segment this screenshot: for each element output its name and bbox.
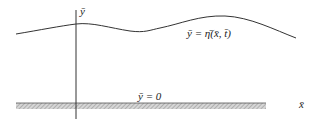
x-axis-label: x̄ <box>299 99 304 110</box>
surface-equation-label: ȳ = η̄(x̄, t̄) <box>187 28 231 39</box>
bottom-equation-label: ȳ = 0 <box>138 91 161 102</box>
bottom-boundary-hatch <box>16 103 266 109</box>
free-surface-curve <box>16 16 296 38</box>
y-axis-label: ȳ <box>80 6 85 17</box>
wave-diagram <box>0 0 317 123</box>
